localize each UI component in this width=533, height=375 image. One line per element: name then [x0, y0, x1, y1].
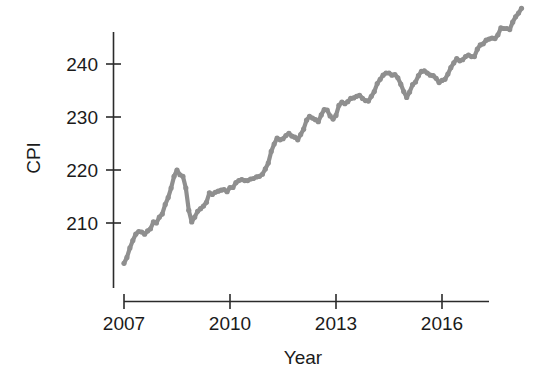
x-tick-label-2016: 2016: [421, 313, 463, 334]
cpi-series-line: [124, 8, 522, 263]
y-tick-label-220: 220: [66, 160, 98, 181]
y-tick-label-210: 210: [66, 213, 98, 234]
chart-figure: 240 230 220 210 2007 2010 2013 2016 CPI …: [0, 0, 533, 375]
x-tick-label-2007: 2007: [103, 313, 145, 334]
y-axis-title: CPI: [23, 142, 44, 174]
x-axis-title: Year: [284, 347, 323, 368]
cpi-line-chart: 240 230 220 210 2007 2010 2013 2016 CPI …: [0, 0, 533, 375]
cpi-series-markers: [121, 6, 524, 266]
y-tick-label-240: 240: [66, 54, 98, 75]
x-tick-label-2010: 2010: [209, 313, 251, 334]
x-tick-label-2013: 2013: [315, 313, 357, 334]
y-tick-label-230: 230: [66, 107, 98, 128]
